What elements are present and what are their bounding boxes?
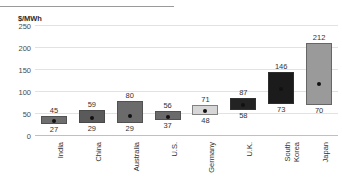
bar-group: 14673 xyxy=(268,26,294,136)
x-axis-category-label: U.S. xyxy=(171,142,180,157)
y-axis-tick-label: 250 xyxy=(18,22,31,31)
bar-low-value-label: 29 xyxy=(88,124,96,133)
midpoint-marker xyxy=(166,115,170,119)
y-axis-tick-label: 100 xyxy=(18,88,31,97)
bar-low-value-label: 58 xyxy=(239,111,247,120)
bar-low-value-label: 48 xyxy=(201,116,209,125)
bar-group: 4527 xyxy=(41,26,67,136)
bar-low-value-label: 29 xyxy=(126,124,134,133)
bar-low-value-label: 27 xyxy=(50,125,58,134)
midpoint-marker xyxy=(52,119,56,123)
header-divider xyxy=(0,6,174,7)
y-axis-tick-label: 150 xyxy=(18,66,31,75)
bar-high-value-label: 45 xyxy=(50,106,58,115)
bar-group: 5929 xyxy=(79,26,105,136)
x-axis-category-label: Australia xyxy=(133,142,142,171)
bar-low-value-label: 37 xyxy=(163,121,171,130)
bar-group: 8758 xyxy=(230,26,256,136)
midpoint-marker xyxy=(128,114,132,118)
x-axis-category-label: U.K. xyxy=(246,142,255,157)
bar-group: 21270 xyxy=(306,26,332,136)
bar-high-value-label: 71 xyxy=(201,95,209,104)
bar-high-value-label: 80 xyxy=(126,91,134,100)
bar-low-value-label: 70 xyxy=(315,106,323,115)
plot-area: 0501001502002504527592980295637714887581… xyxy=(35,26,338,136)
bar-high-value-label: 212 xyxy=(313,33,326,42)
bar-group: 7148 xyxy=(192,26,218,136)
x-axis-category-label: Germany xyxy=(208,142,217,173)
bar-high-value-label: 146 xyxy=(275,62,288,71)
x-axis-category-label: China xyxy=(95,142,104,162)
bar-group: 5637 xyxy=(155,26,181,136)
chart-container: $/MWh 0501001502002504527592980295637714… xyxy=(0,0,342,196)
bar-high-value-label: 59 xyxy=(88,100,96,109)
y-axis-tick-label: 0 xyxy=(27,132,31,141)
bar-high-value-label: 87 xyxy=(239,88,247,97)
y-axis-tick-label: 200 xyxy=(18,44,31,53)
x-axis-category-label: Japan xyxy=(322,142,331,162)
x-axis-category-label: South Korea xyxy=(284,142,301,162)
y-axis-tick-label: 50 xyxy=(23,110,31,119)
range-bar xyxy=(117,101,143,123)
bar-low-value-label: 73 xyxy=(277,105,285,114)
bar-high-value-label: 56 xyxy=(163,101,171,110)
bar-group: 8029 xyxy=(117,26,143,136)
range-bar xyxy=(306,43,332,105)
x-axis-category-label: India xyxy=(57,142,66,158)
